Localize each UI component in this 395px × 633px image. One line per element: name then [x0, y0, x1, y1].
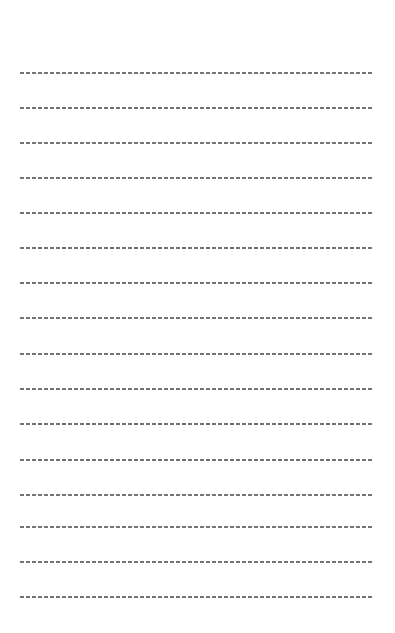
dashed-writing-line: [20, 388, 374, 390]
dashed-writing-line: [20, 596, 374, 598]
dashed-writing-line: [20, 247, 374, 249]
dashed-writing-line: [20, 177, 374, 179]
dashed-writing-line: [20, 353, 374, 355]
dashed-writing-line: [20, 494, 374, 496]
dashed-writing-line: [20, 282, 374, 284]
lined-page: [0, 0, 395, 633]
dashed-writing-line: [20, 142, 374, 144]
dashed-writing-line: [20, 561, 374, 563]
dashed-writing-line: [20, 317, 374, 319]
dashed-writing-line: [20, 72, 374, 74]
dashed-writing-line: [20, 526, 374, 528]
dashed-writing-line: [20, 459, 374, 461]
dashed-writing-line: [20, 107, 374, 109]
dashed-writing-line: [20, 212, 374, 214]
dashed-writing-line: [20, 423, 374, 425]
